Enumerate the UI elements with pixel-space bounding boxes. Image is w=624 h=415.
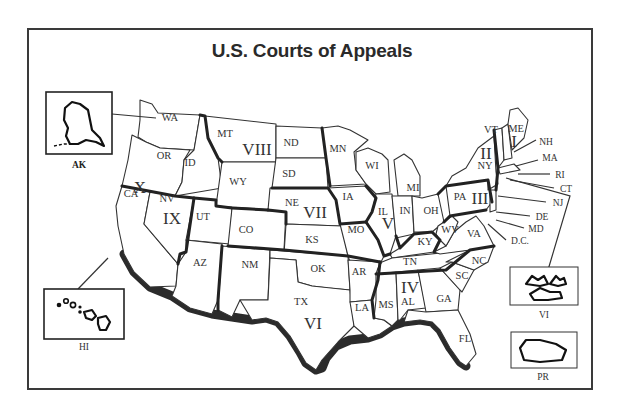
- svg-text:DE: DE: [536, 212, 549, 222]
- svg-text:II: II: [480, 144, 492, 163]
- svg-text:NC: NC: [472, 255, 487, 266]
- svg-text:AK: AK: [72, 160, 87, 170]
- svg-text:IA: IA: [342, 191, 353, 202]
- svg-text:NM: NM: [242, 259, 260, 270]
- svg-text:MS: MS: [378, 299, 393, 310]
- svg-text:ND: ND: [283, 137, 299, 148]
- svg-text:MN: MN: [330, 143, 347, 154]
- hawaii-inset: HI: [44, 258, 124, 352]
- svg-text:V: V: [382, 214, 395, 233]
- svg-text:ID: ID: [184, 157, 195, 168]
- svg-text:KS: KS: [305, 234, 319, 245]
- svg-text:MO: MO: [348, 224, 365, 235]
- puerto-rico-inset: PR: [511, 332, 577, 382]
- svg-text:CO: CO: [239, 224, 254, 235]
- virgin-islands-inset: VI: [510, 267, 578, 320]
- svg-text:RI: RI: [555, 170, 565, 180]
- svg-text:AL: AL: [401, 296, 415, 307]
- svg-text:NE: NE: [285, 197, 299, 208]
- state-in[interactable]: [392, 196, 414, 238]
- svg-text:WV: WV: [441, 224, 459, 235]
- svg-text:WI: WI: [365, 160, 379, 171]
- svg-text:I: I: [511, 132, 517, 151]
- svg-text:MA: MA: [542, 153, 557, 163]
- svg-text:X: X: [134, 178, 146, 197]
- svg-text:WY: WY: [229, 176, 247, 187]
- svg-text:VII: VII: [303, 203, 327, 222]
- state-sd[interactable]: [272, 158, 328, 188]
- svg-text:MI: MI: [407, 182, 420, 193]
- svg-text:GA: GA: [436, 293, 452, 304]
- svg-text:IN: IN: [399, 205, 410, 216]
- svg-text:OH: OH: [423, 205, 439, 216]
- svg-text:TN: TN: [403, 256, 417, 267]
- svg-text:HI: HI: [79, 342, 89, 352]
- svg-text:PR: PR: [537, 372, 549, 382]
- svg-text:IV: IV: [401, 278, 420, 297]
- svg-text:AR: AR: [352, 266, 367, 277]
- svg-text:OK: OK: [310, 263, 326, 274]
- svg-text:FL: FL: [459, 333, 471, 344]
- svg-text:III: III: [472, 189, 489, 208]
- svg-text:AZ: AZ: [193, 257, 207, 268]
- svg-text:D.C.: D.C.: [511, 236, 529, 246]
- svg-text:VIII: VIII: [242, 140, 272, 159]
- svg-text:MD: MD: [528, 224, 543, 234]
- svg-text:SD: SD: [282, 168, 296, 179]
- svg-text:UT: UT: [196, 211, 211, 222]
- svg-text:PA: PA: [454, 191, 467, 202]
- svg-text:VT: VT: [484, 124, 499, 135]
- svg-text:NH: NH: [539, 137, 553, 147]
- svg-text:IX: IX: [163, 209, 181, 228]
- svg-text:MT: MT: [217, 128, 233, 139]
- svg-text:NV: NV: [159, 193, 175, 204]
- svg-text:NJ: NJ: [553, 198, 564, 208]
- us-circuits-map: WA OR ID CA NV MT WY UT CO AZ NM ND SD N…: [0, 0, 624, 415]
- svg-text:WA: WA: [162, 112, 179, 123]
- svg-text:VI: VI: [539, 310, 549, 320]
- svg-text:LA: LA: [355, 302, 369, 313]
- svg-text:VA: VA: [467, 228, 481, 239]
- svg-text:TX: TX: [294, 296, 308, 307]
- state-co[interactable]: [228, 208, 286, 250]
- svg-text:OR: OR: [157, 150, 172, 161]
- svg-text:SC: SC: [456, 270, 469, 281]
- svg-text:VI: VI: [304, 314, 322, 333]
- svg-text:KY: KY: [417, 236, 433, 247]
- svg-text:CT: CT: [560, 184, 572, 194]
